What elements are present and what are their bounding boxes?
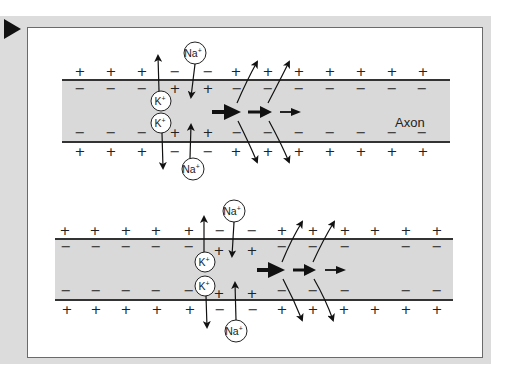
- axon-diagram: + + + − − + + + + + + + − − − + + − − − …: [0, 0, 505, 377]
- svg-text:+: +: [90, 223, 101, 238]
- svg-text:+: +: [370, 302, 381, 317]
- svg-text:+: +: [387, 144, 398, 159]
- svg-text:+: +: [418, 64, 429, 79]
- svg-text:−: −: [203, 144, 214, 159]
- svg-text:+: +: [247, 286, 258, 301]
- svg-text:+: +: [106, 64, 117, 79]
- svg-text:−: −: [247, 223, 258, 238]
- svg-text:−: −: [340, 239, 351, 254]
- svg-text:−: −: [340, 283, 351, 298]
- svg-text:+: +: [231, 144, 242, 159]
- svg-text:+: +: [263, 64, 274, 79]
- svg-text:−: −: [170, 144, 181, 159]
- svg-text:−: −: [401, 239, 412, 254]
- outer-bottom-charges: + + + − − + + + + + + +: [75, 144, 429, 159]
- svg-text:−: −: [75, 125, 86, 140]
- svg-text:+: +: [325, 64, 336, 79]
- svg-text:−: −: [215, 223, 226, 238]
- svg-text:−: −: [432, 283, 443, 298]
- svg-text:−: −: [121, 283, 132, 298]
- svg-text:−: −: [215, 302, 226, 317]
- svg-text:+: +: [340, 223, 351, 238]
- svg-text:−: −: [203, 64, 214, 79]
- svg-text:−: −: [151, 239, 162, 254]
- svg-text:+: +: [91, 302, 102, 317]
- svg-text:−: −: [106, 81, 117, 96]
- svg-text:−: −: [106, 125, 117, 140]
- svg-text:−: −: [61, 283, 72, 298]
- svg-text:+: +: [185, 302, 196, 317]
- svg-text:+: +: [277, 223, 288, 238]
- svg-text:−: −: [432, 239, 443, 254]
- svg-text:+: +: [151, 223, 162, 238]
- svg-text:+: +: [432, 302, 443, 317]
- svg-text:−: −: [417, 81, 428, 96]
- svg-text:+: +: [308, 223, 319, 238]
- axon-label: Axon: [395, 115, 425, 130]
- svg-text:+: +: [387, 64, 398, 79]
- svg-text:−: −: [91, 283, 102, 298]
- svg-text:+: +: [370, 223, 381, 238]
- svg-text:+: +: [247, 243, 258, 258]
- svg-text:−: −: [308, 239, 319, 254]
- svg-text:+: +: [214, 243, 225, 258]
- svg-text:+: +: [277, 302, 288, 317]
- svg-text:−: −: [263, 81, 274, 96]
- svg-text:−: −: [184, 283, 195, 298]
- svg-text:+: +: [170, 81, 181, 96]
- svg-text:−: −: [61, 239, 72, 254]
- svg-text:−: −: [151, 283, 162, 298]
- svg-text:−: −: [91, 239, 102, 254]
- svg-text:−: −: [294, 125, 305, 140]
- svg-text:+: +: [294, 64, 305, 79]
- outer-bottom-charges: + + + + + − − + + + + + +: [62, 302, 443, 317]
- svg-text:+: +: [308, 302, 319, 317]
- svg-text:+: +: [170, 125, 181, 140]
- svg-text:−: −: [137, 81, 148, 96]
- svg-text:+: +: [60, 223, 71, 238]
- svg-text:−: −: [325, 81, 336, 96]
- svg-text:+: +: [294, 144, 305, 159]
- svg-text:+: +: [432, 223, 443, 238]
- svg-text:+: +: [401, 302, 412, 317]
- svg-text:−: −: [75, 81, 86, 96]
- k-ion-bottom: K+: [195, 276, 215, 327]
- svg-text:+: +: [356, 64, 367, 79]
- svg-text:+: +: [62, 302, 73, 317]
- svg-text:−: −: [248, 302, 259, 317]
- svg-text:+: +: [152, 302, 163, 317]
- svg-text:+: +: [203, 125, 214, 140]
- top-axon: + + + − − + + + + + + + − − − + + − − − …: [62, 42, 450, 180]
- svg-text:−: −: [170, 64, 181, 79]
- svg-text:−: −: [121, 239, 132, 254]
- svg-text:−: −: [387, 81, 398, 96]
- svg-text:+: +: [121, 302, 132, 317]
- svg-text:+: +: [137, 64, 148, 79]
- svg-text:+: +: [75, 144, 86, 159]
- svg-text:+: +: [263, 144, 274, 159]
- svg-text:+: +: [184, 223, 195, 238]
- bottom-axon: + + + + + − − + + + + + + − − − − − + + …: [55, 200, 453, 342]
- svg-text:−: −: [401, 283, 412, 298]
- svg-text:−: −: [356, 125, 367, 140]
- svg-text:+: +: [106, 144, 117, 159]
- svg-text:−: −: [356, 81, 367, 96]
- svg-text:+: +: [75, 64, 86, 79]
- svg-text:+: +: [121, 223, 132, 238]
- svg-text:−: −: [137, 125, 148, 140]
- svg-text:−: −: [325, 125, 336, 140]
- svg-text:+: +: [356, 144, 367, 159]
- svg-text:+: +: [231, 64, 242, 79]
- svg-text:−: −: [184, 239, 195, 254]
- svg-text:+: +: [137, 144, 148, 159]
- svg-text:+: +: [203, 81, 214, 96]
- outer-top-charges: + + + + + − − + + + + + +: [60, 223, 443, 238]
- svg-text:+: +: [401, 223, 412, 238]
- svg-text:+: +: [325, 144, 336, 159]
- svg-text:−: −: [294, 81, 305, 96]
- svg-text:+: +: [418, 144, 429, 159]
- svg-text:+: +: [339, 302, 350, 317]
